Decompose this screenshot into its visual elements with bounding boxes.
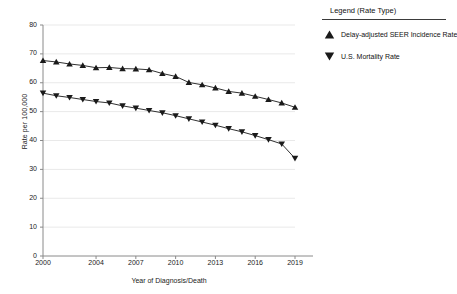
data-point-marker [40, 57, 47, 63]
legend-label-mortality: U.S. Mortality Rate [341, 53, 400, 60]
x-tick-label: 2016 [235, 259, 275, 266]
y-tick-label: 70 [11, 49, 37, 56]
triangle-down-icon [324, 51, 335, 62]
legend-item-mortality[interactable]: U.S. Mortality Rate [322, 51, 446, 62]
x-tick-label: 2013 [195, 259, 235, 266]
series-line [43, 93, 295, 158]
legend-label-incidence: Delay-adjusted SEER Incidence Rate [341, 31, 457, 38]
triangle-up-icon [324, 29, 335, 40]
x-tick-label: 2004 [76, 259, 116, 266]
y-tick-label: 0 [11, 252, 37, 259]
legend-divider [322, 19, 446, 20]
y-tick-label: 30 [11, 165, 37, 172]
x-tick-label: 2007 [116, 259, 156, 266]
data-point-marker [186, 79, 193, 85]
legend: Legend (Rate Type) Delay-adjusted SEER I… [322, 6, 446, 73]
legend-item-incidence[interactable]: Delay-adjusted SEER Incidence Rate [322, 29, 446, 40]
series-mortality [40, 91, 299, 162]
x-tick-label: 2019 [275, 259, 315, 266]
y-tick-label: 10 [11, 223, 37, 230]
series-incidence [40, 57, 299, 109]
y-tick-label: 40 [11, 136, 37, 143]
x-axis-label: Year of Diagnosis/Death [43, 277, 295, 284]
y-tick-label: 50 [11, 107, 37, 114]
y-tick-label: 60 [11, 78, 37, 85]
x-tick-label: 2000 [23, 259, 63, 266]
plot-area: Rate per 100,000 Year of Diagnosis/Death… [0, 0, 315, 294]
plot-canvas [0, 0, 315, 294]
x-tick-label: 2010 [156, 259, 196, 266]
y-tick-label: 80 [11, 21, 37, 28]
data-point-marker [292, 156, 299, 162]
y-tick-label: 20 [11, 194, 37, 201]
legend-title: Legend (Rate Type) [322, 6, 446, 19]
